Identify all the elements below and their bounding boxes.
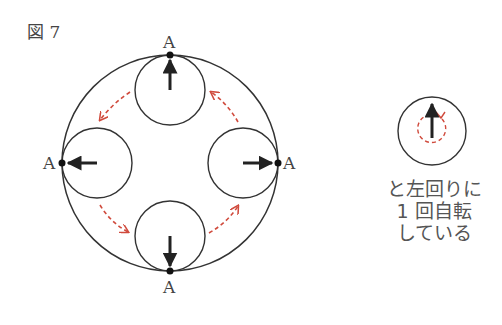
caption-line-1: と左回りに (359, 178, 502, 200)
motion-arrows (100, 92, 238, 233)
legend-rotation-circle (398, 97, 466, 165)
small-circle-left (59, 128, 133, 198)
point-a-marker (167, 268, 174, 275)
motion-arrow-icon (209, 206, 238, 233)
motion-arrow-icon (100, 92, 130, 120)
point-a-marker (275, 160, 282, 167)
rolling-circle-diagram: A A A A (0, 0, 502, 325)
label-a-right: A (282, 153, 296, 173)
point-a-marker (59, 160, 66, 167)
small-circle-top (135, 52, 205, 126)
small-circle-right (208, 128, 282, 198)
motion-arrow-icon (100, 205, 128, 232)
point-a-marker (167, 52, 174, 59)
caption-line-2: 1 回自転 (359, 200, 502, 222)
small-circle-bottom (135, 201, 205, 275)
caption-line-3: している (359, 222, 502, 244)
label-a-left: A (42, 153, 56, 173)
motion-arrow-icon (211, 92, 238, 122)
label-a-top: A (162, 32, 176, 52)
label-a-bottom: A (162, 277, 176, 297)
